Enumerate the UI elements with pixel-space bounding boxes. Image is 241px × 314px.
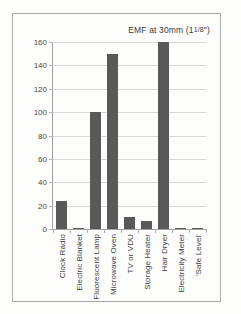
y-tick-label: 0 xyxy=(43,225,47,234)
x-axis-label: TV or VDU xyxy=(125,234,134,274)
x-axis-label: Storage Heater xyxy=(142,234,151,290)
x-label-slot: Clock Radio xyxy=(53,234,70,306)
chart-frame: EMF at 30mm (11/8") 02040608010012014016… xyxy=(12,13,221,302)
bar-microwave-oven xyxy=(107,54,118,229)
bars-layer xyxy=(53,42,206,229)
bar-slot xyxy=(104,42,121,229)
y-tick-label: 40 xyxy=(38,178,47,187)
bar-slot xyxy=(189,42,206,229)
x-tick-mark xyxy=(138,229,139,233)
x-label-slot: 'Safe Level' xyxy=(189,234,206,306)
y-tick-label: 120 xyxy=(34,85,47,94)
x-label-slot: Electric Blanket xyxy=(70,234,87,306)
x-tick-mark xyxy=(53,229,54,233)
x-axis-label: Hair Dryer xyxy=(159,234,168,271)
bar-slot xyxy=(172,42,189,229)
x-tick-mark xyxy=(206,229,207,233)
x-tick-mark xyxy=(121,229,122,233)
y-tick-label: 60 xyxy=(38,155,47,164)
x-axis-label: Clock Radio xyxy=(57,234,66,278)
bar-slot xyxy=(70,42,87,229)
x-axis-label: 'Safe Level' xyxy=(193,234,202,276)
bar-slot xyxy=(155,42,172,229)
chart-title-fraction: 1/8 xyxy=(194,26,204,33)
x-label-slot: Fluorescent Lamp xyxy=(87,234,104,306)
bar-clock-radio xyxy=(56,201,67,229)
y-tick-label: 160 xyxy=(34,38,47,47)
bar-fluorescent-lamp xyxy=(90,112,101,229)
y-tick-label: 80 xyxy=(38,132,47,141)
x-axis-labels: Clock RadioElectric BlanketFluorescent L… xyxy=(53,234,206,306)
x-label-slot: Storage Heater xyxy=(138,234,155,306)
bar-tv-or-vdu xyxy=(124,217,135,229)
bar-slot xyxy=(138,42,155,229)
bar-slot xyxy=(53,42,70,229)
plot-area: 020406080100120140160 Clock RadioElectri… xyxy=(53,42,206,229)
x-tick-mark xyxy=(172,229,173,233)
y-tick-label: 140 xyxy=(34,61,47,70)
x-label-slot: TV or VDU xyxy=(121,234,138,306)
bar-storage-heater xyxy=(141,221,152,229)
x-axis-ticks xyxy=(53,229,206,233)
x-tick-mark xyxy=(87,229,88,233)
x-tick-mark xyxy=(104,229,105,233)
screenshot-root: EMF at 30mm (11/8") 02040608010012014016… xyxy=(0,0,241,314)
bar-hair-dryer xyxy=(158,42,169,229)
y-tick-label: 20 xyxy=(38,202,47,211)
x-tick-mark xyxy=(155,229,156,233)
chart-title-suffix: ") xyxy=(204,25,210,35)
x-axis-label: Electricity Meter xyxy=(176,234,185,293)
x-axis-label: Electric Blanket xyxy=(74,234,83,291)
x-tick-mark xyxy=(189,229,190,233)
chart-title: EMF at 30mm (11/8") xyxy=(128,25,210,35)
bar-slot xyxy=(87,42,104,229)
chart-title-text: EMF at 30mm (1 xyxy=(128,25,193,35)
x-label-slot: Electricity Meter xyxy=(172,234,189,306)
y-tick-label: 100 xyxy=(34,108,47,117)
bar-slot xyxy=(121,42,138,229)
x-tick-mark xyxy=(70,229,71,233)
x-axis-label: Fluorescent Lamp xyxy=(91,234,100,300)
x-label-slot: Hair Dryer xyxy=(155,234,172,306)
x-label-slot: Microwave Oven xyxy=(104,234,121,306)
x-axis-label: Microwave Oven xyxy=(108,234,117,295)
